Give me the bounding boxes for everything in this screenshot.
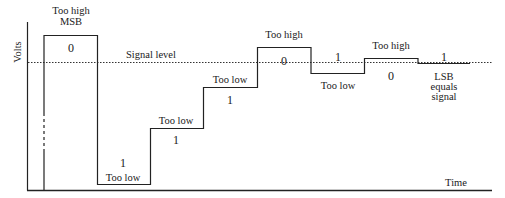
step3-bit: 1 [173, 133, 179, 147]
step5-label: Too high [265, 29, 303, 40]
step8-bit: 1 [441, 50, 447, 64]
step4-bit: 1 [227, 93, 233, 107]
step5-bit: 0 [281, 54, 287, 68]
y-axis-label: Volts [12, 41, 23, 62]
step2-bit: 1 [120, 156, 126, 170]
step7-label: Too high [372, 40, 410, 51]
step7-bit: 0 [388, 69, 394, 83]
step1-bit: 0 [68, 41, 74, 55]
step4-label: Too low [213, 74, 248, 85]
adc-diagram: Volts Time Signal level Too high MSB 0 1… [0, 0, 505, 198]
x-axis-label: Time [445, 177, 467, 188]
step1-msb-label: MSB [60, 16, 82, 27]
step3-label: Too low [159, 115, 194, 126]
step6-label: Too low [321, 80, 356, 91]
step2-label: Too low [106, 172, 141, 183]
signal-level-label: Signal level [126, 49, 176, 60]
approximation-waveform [44, 36, 470, 191]
step6-bit: 1 [335, 50, 341, 64]
step1-label: Too high [52, 5, 90, 16]
step8-signal-label: signal [431, 91, 456, 102]
